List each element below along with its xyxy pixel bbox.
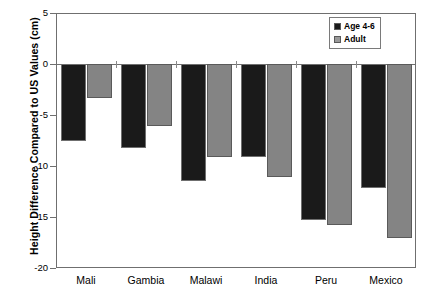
bar-mexico-adult <box>387 64 412 238</box>
y-axis-tick-label-wrap: -10 <box>10 166 48 176</box>
y-axis-tick <box>50 268 56 269</box>
bar-gambia-age-4-6 <box>121 64 146 148</box>
bar-mexico-age-4-6 <box>361 64 386 188</box>
bar-malawi-adult <box>207 64 232 157</box>
bar-gambia-adult <box>147 64 172 126</box>
x-axis-label-india: India <box>255 274 278 286</box>
y-axis-tick-label: -5 <box>14 110 48 120</box>
bar-malawi-age-4-6 <box>181 64 206 181</box>
legend-label-age-4-6: Age 4-6 <box>344 22 375 31</box>
y-axis-tick-label-wrap: 0 <box>10 64 48 74</box>
y-axis-tick <box>50 115 56 116</box>
chart-legend: Age 4-6 Adult <box>329 17 381 49</box>
x-axis-tick <box>356 61 357 68</box>
y-axis-tick-label: -15 <box>14 212 48 222</box>
legend-label-adult: Adult <box>344 35 366 44</box>
legend-swatch-icon-age-4-6 <box>334 23 341 30</box>
legend-item-age-4-6: Age 4-6 <box>334 21 375 32</box>
y-axis-tick-label: 0 <box>14 59 48 69</box>
x-axis-label-mexico: Mexico <box>369 274 402 286</box>
legend-swatch-icon-adult <box>334 36 341 43</box>
bar-mali-age-4-6 <box>61 64 86 141</box>
bar-peru-adult <box>327 64 352 225</box>
x-axis-tick <box>176 61 177 68</box>
x-axis-tick <box>296 61 297 68</box>
y-axis-tick-label-wrap: -15 <box>10 217 48 227</box>
y-axis-tick <box>50 13 56 14</box>
y-axis-tick <box>50 166 56 167</box>
legend-item-adult: Adult <box>334 34 375 45</box>
y-axis-tick-label: -10 <box>14 161 48 171</box>
y-axis-tick-label: -20 <box>14 263 48 273</box>
bar-india-adult <box>267 64 292 177</box>
y-axis-tick-label-wrap: -20 <box>10 268 48 278</box>
bar-india-age-4-6 <box>241 64 266 157</box>
x-axis-label-gambia: Gambia <box>128 274 165 286</box>
x-axis-label-malawi: Malawi <box>190 274 223 286</box>
x-axis-tick <box>116 61 117 68</box>
y-axis-tick <box>50 217 56 218</box>
y-axis-tick-label-wrap: -5 <box>10 115 48 125</box>
bar-mali-adult <box>87 64 112 98</box>
x-axis-tick <box>236 61 237 68</box>
y-axis-tick-label-wrap: 5 <box>10 13 48 23</box>
bar-chart: Height Difference Compared to US Values … <box>0 0 432 297</box>
x-axis-label-mali: Mali <box>76 274 95 286</box>
y-axis-tick-label: 5 <box>14 8 48 18</box>
x-axis-label-peru: Peru <box>315 274 337 286</box>
bar-peru-age-4-6 <box>301 64 326 220</box>
